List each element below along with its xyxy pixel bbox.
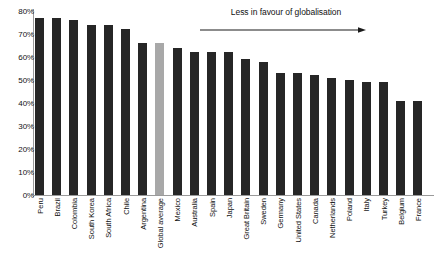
x-axis-label: Netherlands [327, 198, 336, 272]
bar [87, 25, 96, 195]
bar [104, 25, 113, 195]
y-axis-tick-label: 60% [0, 53, 34, 62]
bar [173, 48, 182, 195]
x-axis-label: Germany [276, 198, 285, 272]
x-axis-label: South Korea [87, 198, 96, 272]
x-axis-label-text: Colombia [69, 198, 78, 229]
bar [259, 62, 268, 195]
x-axis-label-text: Poland [345, 198, 354, 221]
y-axis-tick-label: 0% [0, 191, 34, 200]
x-axis-label: Turkey [379, 198, 388, 272]
x-axis-label-text: South Africa [104, 198, 113, 238]
bar [379, 82, 388, 195]
x-axis-label: France [413, 198, 422, 272]
x-axis-label: Italy [362, 198, 371, 272]
x-axis-label-text: Chile [121, 198, 130, 215]
bar [224, 52, 233, 195]
x-axis-label-text: Belgium [396, 198, 405, 225]
y-axis-tick-mark [30, 34, 34, 35]
x-axis-label-text: Brazil [52, 198, 61, 216]
bar [121, 29, 130, 195]
bar [413, 101, 422, 195]
x-axis-label: Argentina [138, 198, 147, 272]
x-axis-label-text: Great Britain [241, 198, 250, 239]
y-axis-tick-mark [30, 11, 34, 12]
bar [362, 82, 371, 195]
x-axis-label: Mexico [173, 198, 182, 272]
y-axis-tick-mark [30, 126, 34, 127]
y-axis-tick-mark [30, 195, 34, 196]
y-axis-tick-label: 20% [0, 145, 34, 154]
bar [69, 20, 78, 195]
x-axis-label-text: Australia [190, 198, 199, 227]
bar [52, 18, 61, 195]
x-axis-label: South Africa [104, 198, 113, 272]
x-axis-label: Colombia [69, 198, 78, 272]
bar [293, 73, 302, 195]
arrow-right-icon [200, 26, 366, 34]
bar [35, 18, 44, 195]
x-axis-line [33, 195, 434, 196]
y-axis-tick-label: 40% [0, 99, 34, 108]
bar [310, 75, 319, 195]
bar [396, 101, 405, 195]
x-axis-label-text: Mexico [173, 198, 182, 221]
x-axis-label-text: Turkey [379, 198, 388, 220]
bar [327, 78, 336, 195]
bar [190, 52, 199, 195]
y-axis-tick-label: 30% [0, 122, 34, 131]
x-axis-label-text: United States [293, 198, 302, 242]
annotation-label: Less in favour of globalisation [196, 7, 376, 17]
x-axis-label-text: France [413, 198, 422, 221]
y-axis-tick-label: 50% [0, 76, 34, 85]
y-axis-tick-mark [30, 80, 34, 81]
y-axis-tick-mark [30, 149, 34, 150]
bar [345, 80, 354, 195]
x-axis-label: Global average [155, 198, 164, 272]
x-axis-label: Australia [190, 198, 199, 272]
x-axis-label-text: Italy [362, 198, 371, 212]
x-axis-label: Japan [224, 198, 233, 272]
annotation-less-in-favour: Less in favour of globalisation [196, 7, 376, 17]
y-axis-tick-mark [30, 57, 34, 58]
x-axis-label-text: Netherlands [327, 198, 336, 238]
x-axis-label: Canada [310, 198, 319, 272]
bar [138, 43, 147, 195]
x-axis-label: Poland [345, 198, 354, 272]
x-axis-label-text: Argentina [138, 198, 147, 230]
x-axis-label-text: Peru [35, 198, 44, 214]
bar [207, 52, 216, 195]
x-axis-label: United States [293, 198, 302, 272]
x-axis-label-text: Germany [276, 198, 285, 229]
x-axis-label-text: South Korea [87, 198, 96, 239]
x-axis-label-text: Sweden [259, 198, 268, 225]
x-axis-label: Peru [35, 198, 44, 272]
y-axis-tick-mark [30, 103, 34, 104]
x-axis-label: Belgium [396, 198, 405, 272]
x-axis-label-text: Canada [310, 198, 319, 224]
x-axis-label: Brazil [52, 198, 61, 272]
bar-chart: 0%10%20%30%40%50%60%70%80% PeruBrazilCol… [0, 0, 438, 274]
y-axis-tick-mark [30, 172, 34, 173]
x-axis-label: Great Britain [241, 198, 250, 272]
y-axis-tick-label: 80% [0, 7, 34, 16]
x-axis-label: Spain [207, 198, 216, 272]
bar [155, 43, 164, 195]
x-axis-label: Chile [121, 198, 130, 272]
x-axis-label-text: Spain [207, 198, 216, 217]
y-axis-tick-label: 70% [0, 30, 34, 39]
bar [276, 73, 285, 195]
bar [241, 59, 250, 195]
x-axis-label: Sweden [259, 198, 268, 272]
x-axis-label-text: Japan [224, 198, 233, 218]
y-axis-tick-label: 10% [0, 168, 34, 177]
x-axis-label-text: Global average [155, 198, 164, 248]
